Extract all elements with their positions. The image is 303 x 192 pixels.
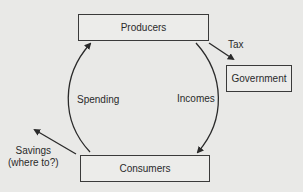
tax-label: Tax [228,39,244,50]
savings-label-line1: Savings [8,145,59,157]
spending-label: Spending [77,94,119,105]
savings-label: Savings (where to?) [8,145,59,169]
incomes-label: Incomes [177,93,215,104]
government-node: Government [226,65,292,92]
producers-node: Producers [78,14,209,41]
producers-label: Producers [121,22,167,33]
consumers-node: Consumers [80,155,210,182]
government-label: Government [231,73,286,84]
consumers-label: Consumers [119,163,170,174]
savings-label-line2: (where to?) [8,157,59,169]
